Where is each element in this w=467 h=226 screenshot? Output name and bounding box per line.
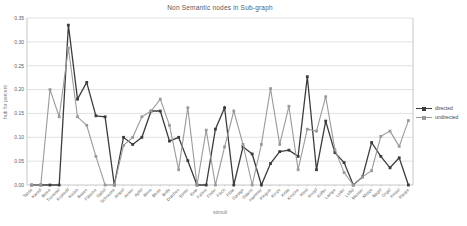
x-tick-label: Fisch (215, 187, 226, 198)
undirected-data-point (297, 168, 300, 171)
undirected-data-point (278, 143, 281, 146)
legend-label-undirected: undirected (435, 114, 458, 121)
x-tick-label: Leiter (335, 187, 347, 199)
undirected-data-point (333, 148, 336, 151)
undirected-data-point (343, 171, 346, 174)
directed-data-point (269, 162, 272, 165)
directed-data-point (95, 114, 98, 117)
x-tick-label: Anker (123, 187, 135, 199)
undirected-data-point (122, 144, 125, 147)
x-tick-label: Raupe (398, 187, 411, 200)
undirected-data-point (196, 184, 199, 187)
chart-figure: Non Semantic nodes in Sub-graph hub for … (0, 0, 467, 226)
undirected-data-point (232, 110, 235, 113)
undirected-data-point (361, 175, 364, 178)
undirected-data-point (140, 115, 143, 118)
undirected-data-point (223, 145, 226, 148)
directed-data-point (398, 156, 401, 159)
undirected-data-point (39, 184, 42, 187)
undirected-data-point (205, 129, 208, 132)
undirected-data-point (76, 115, 79, 118)
legend-label-directed: directed (435, 105, 453, 112)
undirected-data-point (398, 145, 401, 148)
y-tick-label: 0.05 (14, 158, 24, 164)
directed-data-point (85, 81, 88, 84)
undirected-data-point (85, 124, 88, 127)
undirected-data-point (288, 105, 291, 108)
undirected-data-point (370, 169, 373, 172)
undirected-data-point (407, 119, 410, 122)
directed-data-point (104, 115, 107, 118)
x-axis-label: stimuli (27, 209, 413, 215)
undirected-data-point (251, 184, 254, 187)
directed-data-point (278, 150, 281, 153)
x-tick-label: Bluse (151, 187, 163, 199)
directed-series-swatch (416, 105, 432, 112)
directed-data-point (306, 75, 309, 78)
directed-data-point (67, 24, 70, 27)
directed-data-point (214, 128, 217, 131)
x-tick-label: Kerze (270, 187, 282, 199)
directed-data-point (379, 155, 382, 158)
y-tick-label: 0.00 (14, 182, 24, 188)
undirected-data-point (214, 184, 217, 187)
undirected-data-point (324, 95, 327, 98)
x-tick-label: Nagel (371, 187, 383, 199)
directed-data-point (159, 110, 162, 113)
directed-data-point (343, 161, 346, 164)
legend: directed undirected (416, 105, 458, 121)
directed-data-point (140, 136, 143, 139)
undirected-data-point (104, 184, 107, 187)
undirected-data-point (159, 98, 162, 101)
undirected-data-point (49, 88, 52, 91)
directed-data-point (168, 140, 171, 143)
directed-data-point (58, 184, 61, 187)
undirected-series-line (32, 48, 409, 185)
y-tick-label: 0.35 (14, 15, 24, 21)
directed-data-point (232, 184, 235, 187)
undirected-data-point (242, 143, 245, 146)
undirected-data-point (131, 136, 134, 139)
undirected-data-point (379, 135, 382, 138)
directed-data-point (177, 136, 180, 139)
directed-data-point (407, 184, 410, 187)
directed-data-point (251, 153, 254, 156)
y-tick-label: 0.20 (14, 86, 24, 92)
directed-data-point (315, 168, 318, 171)
undirected-data-point (186, 106, 189, 109)
undirected-data-point (352, 184, 355, 187)
undirected-data-point (95, 155, 98, 158)
undirected-data-point (30, 184, 33, 187)
directed-data-point (131, 143, 134, 146)
x-tick-label: Feder (206, 187, 218, 199)
y-tick-label: 0.30 (14, 39, 24, 45)
x-tick-label: Apfel (133, 187, 143, 197)
directed-data-point (122, 136, 125, 139)
directed-data-point (370, 141, 373, 144)
line-plot-area: 0.000.050.100.150.200.250.300.35TasseKam… (0, 0, 467, 226)
undirected-data-point (177, 168, 180, 171)
directed-data-point (49, 184, 52, 187)
directed-data-point (186, 159, 189, 162)
directed-data-point (389, 166, 392, 169)
directed-data-point (288, 149, 291, 152)
legend-item-directed: directed (416, 105, 458, 112)
directed-data-point (205, 184, 208, 187)
directed-data-point (76, 98, 79, 101)
undirected-data-point (315, 130, 318, 133)
y-tick-label: 0.15 (14, 110, 24, 116)
y-tick-label: 0.25 (14, 63, 24, 69)
undirected-data-point (269, 87, 272, 90)
undirected-data-point (113, 184, 116, 187)
undirected-data-point (389, 130, 392, 133)
legend-item-undirected: undirected (416, 114, 458, 121)
undirected-data-point (58, 115, 61, 118)
directed-data-point (223, 106, 226, 109)
directed-data-point (260, 184, 263, 187)
undirected-data-point (150, 110, 153, 113)
x-tick-label: Eimer (178, 187, 190, 199)
y-tick-label: 0.10 (14, 134, 24, 140)
undirected-data-point (260, 143, 263, 146)
undirected-series-swatch (416, 114, 432, 121)
directed-data-point (324, 120, 327, 123)
